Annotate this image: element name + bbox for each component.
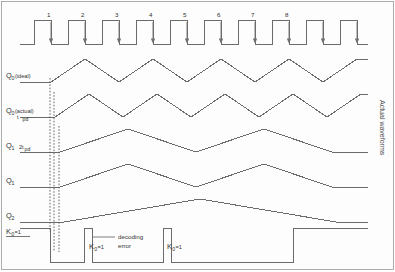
signal-note-q0_actual: t	[17, 114, 19, 120]
signal-row-q0_ideal: Q0(ideal)	[6, 59, 368, 82]
signal-subscript-q0_actual: 0	[11, 110, 14, 116]
waveform-q0_actual	[20, 94, 368, 117]
falling-edge-arrowhead	[151, 39, 155, 44]
actual-waveforms-side-label: Actual waveforms	[379, 100, 386, 156]
falling-edge-arrowhead	[219, 39, 223, 44]
signal-subscript-q1_actual: 1	[11, 145, 14, 151]
clock-number-8: 8	[285, 11, 289, 18]
clock-number-6: 6	[217, 11, 221, 18]
falling-edge-arrowhead	[83, 39, 87, 44]
falling-edge-arrowhead	[117, 39, 121, 44]
k0-label-left-equals: =1	[15, 229, 21, 235]
falling-edge-arrowhead	[49, 39, 53, 44]
clock-number-group: 12345678	[47, 11, 289, 18]
clock-number-3: 3	[115, 11, 119, 18]
falling-edge-arrowhead	[355, 39, 359, 44]
dashed-marker-group	[50, 78, 59, 252]
signal-row-q0_actual: Q0(actual)tpd	[6, 94, 368, 122]
signal-row-q1_actual: Q12tpd	[6, 129, 368, 152]
waveform-q1_div4	[20, 164, 368, 187]
k0-label-mid-equals: =1	[98, 244, 104, 250]
signal-note-q1_actual: 2t	[19, 144, 24, 150]
waveform-q1_actual	[20, 129, 368, 152]
clock-number-2: 2	[81, 11, 85, 18]
figure-border	[2, 2, 394, 270]
clock-number-4: 4	[149, 11, 153, 18]
signal-subscript-q0_ideal: 0	[11, 75, 14, 81]
signal-paren-q0_ideal: (ideal)	[15, 73, 31, 79]
falling-edge-arrowhead	[253, 39, 257, 44]
clock-number-7: 7	[251, 11, 255, 18]
annotation-group: K0=1K0=1K0=1	[6, 227, 182, 252]
signal-subscript-q2_div8: 2	[11, 215, 14, 221]
falling-edge-arrowhead	[321, 39, 325, 44]
clock-number-5: 5	[183, 11, 187, 18]
clock-number-1: 1	[47, 11, 51, 18]
k0-label-right-equals: =1	[176, 244, 182, 250]
k0-decode-waveform	[20, 228, 368, 262]
signal-note-sub-q1_actual: pd	[25, 146, 31, 152]
signal-note-sub-q0_actual: pd	[23, 116, 29, 122]
falling-edge-arrowhead	[287, 39, 291, 44]
decoding-error-line1: decoding	[118, 233, 144, 240]
signal-row-q1_div4: Q1	[6, 164, 368, 187]
clock-row: 12345678	[20, 11, 368, 44]
waveform-q0_ideal	[20, 59, 368, 82]
signal-rows-group: Q0(ideal)Q0(actual)tpdQ12tpdQ1Q2	[6, 59, 368, 222]
clock-waveform	[20, 20, 368, 44]
signal-row-q2_div8: Q2	[6, 199, 368, 222]
decode-row	[20, 228, 368, 262]
decoding-error-line2: error	[118, 242, 131, 249]
falling-edge-arrowhead	[185, 39, 189, 44]
timing-diagram-canvas: 12345678 Q0(ideal)Q0(actual)tpdQ12tpdQ1Q…	[0, 0, 395, 272]
waveform-q2_div8	[20, 199, 368, 222]
timing-diagram-figure: 12345678 Q0(ideal)Q0(actual)tpdQ12tpdQ1Q…	[0, 0, 395, 272]
signal-subscript-q1_div4: 1	[11, 180, 14, 186]
